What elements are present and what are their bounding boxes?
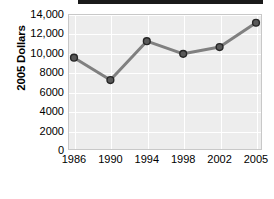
data-point-marker [143, 38, 150, 45]
data-point-marker [180, 50, 187, 57]
y-tick-label: 10,000 [6, 47, 64, 59]
y-tick-label: 8000 [6, 66, 64, 78]
chart-figure: 2005 Dollars 0200040006000800010,00012,0… [0, 0, 274, 199]
data-series-line [68, 14, 262, 150]
data-point-marker [107, 77, 114, 84]
x-tick-label: 2005 [234, 153, 274, 165]
title-rule-bar [78, 0, 263, 4]
data-point-marker [216, 44, 223, 51]
y-tick-label: 6000 [6, 86, 64, 98]
gridline-horizontal [69, 151, 261, 152]
y-tick-label: 4000 [6, 105, 64, 117]
y-tick-label: 2000 [6, 125, 64, 137]
data-point-marker [71, 54, 78, 61]
data-point-marker [253, 19, 260, 26]
series-polyline [74, 23, 256, 80]
y-tick-label: 14,000 [6, 8, 64, 20]
y-tick-label: 12,000 [6, 27, 64, 39]
